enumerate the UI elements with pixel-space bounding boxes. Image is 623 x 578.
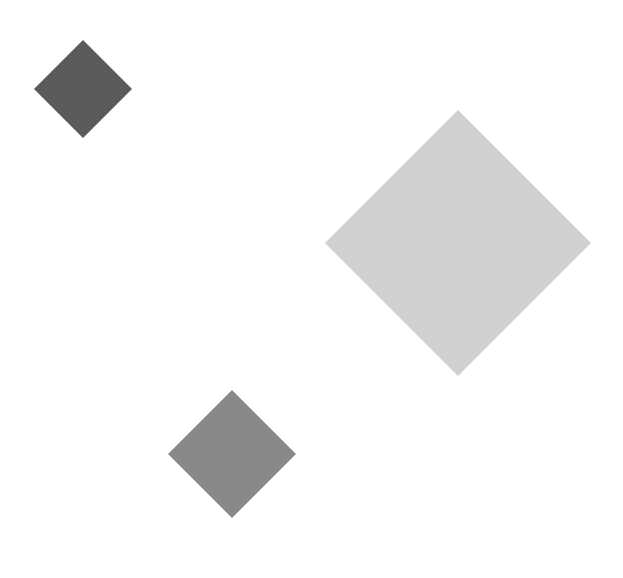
image-canvas — [0, 0, 623, 578]
shape-canvas-svg — [0, 0, 623, 578]
